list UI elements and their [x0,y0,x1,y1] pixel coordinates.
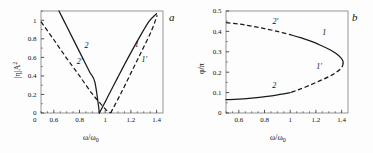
panel-b-xaxis-label: ω/ω0 [270,133,286,142]
curve-1 [290,35,343,63]
xtick-label: 1.2 [127,116,136,124]
ytick-label: 0.3 [213,48,222,56]
plot-frame [226,11,348,113]
panel-a-plot: 0.60.811.21.400.20.40.60.810212′1′ [0,0,186,153]
xtick-label: 1.4 [337,116,346,124]
ytick-label: 0.6 [28,54,37,62]
origin-zero-label: 0 [33,116,37,124]
panel-a-yaxis-label-main: |η|A [13,65,22,78]
xtick-label: 1 [288,116,292,124]
xtick-label: 1 [103,116,107,124]
ytick-label: 0.4 [28,72,37,80]
ytick-label: 0.2 [213,69,222,77]
ytick-label: 0 [218,109,222,117]
curve-label-1-prime: 1′ [142,55,148,64]
ytick-label: 0.1 [213,89,222,97]
panel-a-xaxis-label-main: ω/ω [83,133,96,142]
curve-2-prime [41,22,111,113]
panel-a-tag: a [169,11,175,23]
panel-b-tag: b [352,11,358,23]
curve-label-2-prime: 2′ [273,17,279,26]
xtick-label: 0.6 [234,116,243,124]
curve-label-2-prime: 2′ [77,57,83,66]
panel-a-xaxis-label-sub: 0 [96,137,99,143]
xtick-label: 0.8 [260,116,269,124]
curve-1 [99,14,156,113]
curve-label-1-prime: 1′ [316,62,322,71]
figure-container: 0.60.811.21.400.20.40.60.810212′1′ a ω/ω… [0,0,373,153]
panel-b-plot: 0.60.811.21.400.10.20.30.40.52′11′2 [186,0,373,153]
curve-label-1: 1 [322,28,326,37]
curve-2-prime [226,23,290,35]
ytick-label: 1 [33,17,37,25]
xtick-label: 1.4 [152,116,161,124]
panel-a-xaxis-label: ω/ω0 [83,133,99,142]
curve-label-1: 1 [135,40,139,49]
panel-b-xaxis-label-main: ω/ω [270,133,283,142]
panel-a: 0.60.811.21.400.20.40.60.810212′1′ a ω/ω… [0,0,186,153]
ytick-label: 0.2 [28,91,37,99]
xtick-label: 1.2 [312,116,321,124]
panel-b: 0.60.811.21.400.10.20.30.40.52′11′2 b ω/… [186,0,373,153]
curve-2 [226,93,290,100]
panel-a-yaxis-label-sup: 2 [12,62,18,65]
panel-a-yaxis-label: |η|A2 [13,62,22,78]
ytick-label: 0.5 [213,7,222,15]
panel-b-yaxis-label: φ/π [197,63,206,74]
xtick-label: 0.8 [75,116,84,124]
panel-b-xaxis-label-sub: 0 [283,137,286,143]
xtick-label: 0.6 [49,116,58,124]
curve-label-2: 2 [272,81,276,90]
curve-label-2: 2 [85,41,89,50]
ytick-label: 0.4 [213,28,222,36]
ytick-label: 0.8 [28,35,37,43]
curve-1-prime [111,15,158,113]
